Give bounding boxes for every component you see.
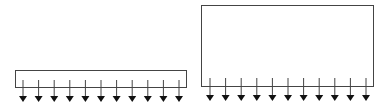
down-arrow-icon — [315, 78, 323, 101]
down-arrow-icon — [253, 78, 261, 101]
down-arrow-icon — [346, 78, 354, 101]
tall-box — [202, 6, 374, 102]
box — [202, 6, 374, 87]
down-arrow-icon — [331, 78, 339, 101]
down-arrow-icon — [50, 80, 58, 102]
short-box — [16, 71, 187, 103]
down-arrow-icon — [222, 78, 230, 101]
down-arrow-icon — [81, 80, 89, 102]
down-arrow-icon — [206, 78, 214, 101]
down-arrow-icon — [300, 78, 308, 101]
down-arrow-icon — [175, 80, 183, 102]
down-arrow-icon — [35, 80, 43, 102]
down-arrow-icon — [144, 80, 152, 102]
down-arrow-icon — [97, 80, 105, 102]
down-arrow-icon — [284, 78, 292, 101]
force-diagram — [0, 0, 391, 108]
down-arrow-icon — [66, 80, 74, 102]
down-arrow-icon — [19, 80, 27, 102]
down-arrow-icon — [113, 80, 121, 102]
down-arrow-icon — [159, 80, 167, 102]
down-arrow-icon — [237, 78, 245, 101]
down-arrow-icon — [128, 80, 136, 102]
down-arrow-icon — [268, 78, 276, 101]
down-arrow-icon — [362, 78, 370, 101]
